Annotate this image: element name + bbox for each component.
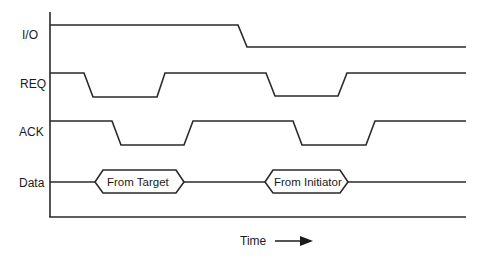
data-phase-label: From Target bbox=[107, 176, 170, 188]
waveform-ack bbox=[50, 121, 466, 145]
signal-label-req: REQ bbox=[20, 77, 46, 91]
waveform-req bbox=[50, 73, 466, 97]
data-phase-from-target: From Target bbox=[95, 170, 184, 193]
signal-label-data: Data bbox=[19, 176, 45, 190]
timing-diagram: I/O REQ ACK Data From Target From Initia… bbox=[0, 0, 481, 259]
waveform-io bbox=[50, 25, 466, 47]
data-phase-label: From Initiator bbox=[274, 176, 342, 188]
right-arrow-icon bbox=[275, 236, 313, 246]
signal-label-ack: ACK bbox=[19, 125, 44, 139]
data-phase-from-initiator: From Initiator bbox=[265, 170, 348, 193]
signal-label-io: I/O bbox=[22, 28, 38, 42]
time-axis-label: Time bbox=[240, 234, 267, 248]
